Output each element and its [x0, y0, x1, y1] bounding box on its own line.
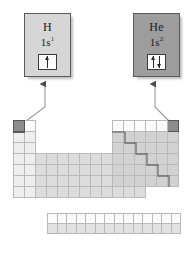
table-cell[interactable]: [76, 224, 86, 234]
periodic-table-f-block[interactable]: [47, 213, 181, 234]
table-cell[interactable]: [57, 224, 67, 234]
table-row: [48, 224, 181, 234]
table-cell[interactable]: [133, 214, 143, 224]
table-cell[interactable]: [171, 224, 181, 234]
table-cell[interactable]: [124, 214, 134, 224]
table-cell[interactable]: [86, 224, 96, 234]
table-cell[interactable]: [152, 224, 162, 234]
table-cell[interactable]: [67, 214, 77, 224]
table-cell[interactable]: [124, 224, 134, 234]
table-cell[interactable]: [114, 224, 124, 234]
table-cell[interactable]: [95, 224, 105, 234]
table-cell[interactable]: [67, 224, 77, 234]
figure-canvas: H 1s1 He 1s2: [0, 0, 193, 258]
table-row: [48, 214, 181, 224]
table-cell[interactable]: [133, 224, 143, 234]
table-cell[interactable]: [152, 214, 162, 224]
table-cell[interactable]: [171, 214, 181, 224]
f-block-grid: [47, 213, 181, 234]
table-cell[interactable]: [86, 214, 96, 224]
table-cell[interactable]: [143, 214, 153, 224]
table-cell[interactable]: [48, 214, 58, 224]
table-cell[interactable]: [162, 214, 172, 224]
table-cell[interactable]: [95, 214, 105, 224]
table-cell[interactable]: [162, 224, 172, 234]
table-cell[interactable]: [143, 224, 153, 234]
staircase-path: [125, 132, 169, 187]
table-cell[interactable]: [57, 214, 67, 224]
table-cell[interactable]: [105, 214, 115, 224]
table-cell[interactable]: [48, 224, 58, 234]
table-cell[interactable]: [105, 224, 115, 234]
table-cell[interactable]: [76, 214, 86, 224]
table-cell[interactable]: [114, 214, 124, 224]
